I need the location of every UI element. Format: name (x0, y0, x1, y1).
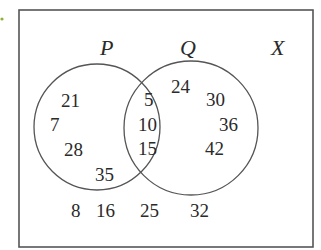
set-p-label: P (99, 35, 113, 60)
p-only-value: 35 (95, 164, 114, 185)
q-only-value: 30 (206, 89, 225, 110)
p-only-value: 7 (50, 114, 60, 135)
p-only-value: 28 (64, 139, 83, 160)
margin-marker (0, 17, 3, 20)
p-only-value: 21 (61, 90, 80, 111)
outside-value: 32 (190, 200, 209, 221)
venn-diagram: P Q X 21 7 28 35 5 10 15 24 30 36 42 8 1… (0, 0, 321, 250)
universal-set-label: X (270, 35, 286, 60)
universal-set-box (19, 10, 313, 247)
intersection-value: 15 (138, 138, 157, 159)
q-only-value: 42 (205, 138, 224, 159)
outside-value: 8 (71, 200, 81, 221)
outside-value: 16 (96, 200, 115, 221)
intersection-value: 10 (138, 114, 157, 135)
intersection-value: 5 (144, 89, 154, 110)
q-only-value: 24 (171, 76, 191, 97)
q-only-value: 36 (219, 114, 238, 135)
set-q-label: Q (180, 35, 196, 60)
outside-value: 25 (140, 200, 159, 221)
